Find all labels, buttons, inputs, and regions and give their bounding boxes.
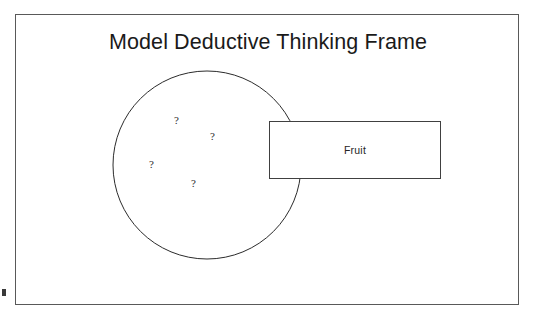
question-mark-1: ? xyxy=(174,115,179,126)
question-mark-4: ? xyxy=(191,178,196,189)
slide-canvas: Model Deductive Thinking Frame ? ? ? ? F… xyxy=(0,0,535,325)
question-mark-3: ? xyxy=(149,159,154,170)
deductive-thinking-diagram: ? ? ? ? Fruit xyxy=(16,15,520,306)
fruit-category-label: Fruit xyxy=(344,144,366,156)
fruit-category-box[interactable]: Fruit xyxy=(269,121,441,179)
question-mark-2: ? xyxy=(210,131,215,142)
diagram-shapes-layer xyxy=(16,15,520,306)
slide-frame: Model Deductive Thinking Frame ? ? ? ? F… xyxy=(15,14,519,305)
page-edge-artifact xyxy=(2,289,6,296)
